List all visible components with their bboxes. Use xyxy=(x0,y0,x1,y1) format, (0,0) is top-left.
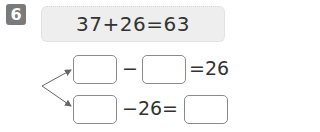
answer-box-row2-minuend[interactable] xyxy=(73,95,117,124)
row1-minus-sign: − xyxy=(122,54,138,83)
answer-box-row2-result[interactable] xyxy=(184,95,228,124)
answer-box-row1-subtrahend[interactable] xyxy=(142,55,186,84)
row2-expression: −26= xyxy=(122,94,178,123)
answer-box-row1-minuend[interactable] xyxy=(73,55,117,84)
row1-result: =26 xyxy=(189,54,229,83)
